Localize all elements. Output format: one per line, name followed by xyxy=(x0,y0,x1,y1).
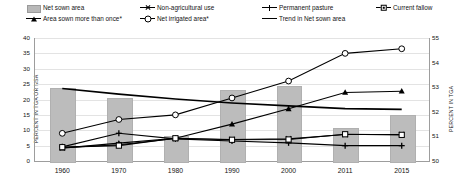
plot-wrapper: PERCENT IN TGA OR NSA PERCENT IN TGA 051… xyxy=(0,30,462,188)
series-layer xyxy=(34,38,430,161)
y-axis-right-tick: 53 xyxy=(432,83,448,90)
legend-item-label: Current fallow xyxy=(393,4,432,11)
x-axis-tick: 1970 xyxy=(111,167,126,174)
y-axis-left-tick: 0 xyxy=(14,157,30,164)
legend-key xyxy=(140,14,155,23)
legend-item-label: Area sown more than once* xyxy=(43,15,122,22)
y-axis-left-tick: 30 xyxy=(14,65,30,72)
plus-marker-icon xyxy=(267,5,273,11)
data-point-plus xyxy=(399,143,405,149)
legend-item-label: Net sown area xyxy=(43,4,84,11)
data-point-square xyxy=(343,132,348,137)
data-point-circle xyxy=(229,95,235,101)
legend-key xyxy=(26,14,41,23)
legend-item[interactable]: Trend in Net sown area xyxy=(262,14,345,23)
y-axis-left-tick: 15 xyxy=(14,111,30,118)
data-point-square xyxy=(116,143,121,148)
y-axis-right-tick: 55 xyxy=(432,34,448,41)
plot-area xyxy=(34,38,430,161)
data-point-square xyxy=(60,145,65,150)
legend-key xyxy=(376,3,391,12)
x-axis-tick: 1980 xyxy=(168,167,183,174)
y-axis-right-tick: 54 xyxy=(432,59,448,66)
x-axis-tick: 1990 xyxy=(224,167,239,174)
legend-item[interactable]: Current fallow xyxy=(376,3,432,12)
data-point-circle xyxy=(399,46,405,52)
data-point-circle xyxy=(59,130,65,136)
data-point-circle xyxy=(116,117,122,123)
legend-item[interactable]: Permanent pasture xyxy=(262,3,333,12)
y-axis-right-tick: 51 xyxy=(432,132,448,139)
x-axis-tick: 2011 xyxy=(338,167,353,174)
y-axis-left-tick: 10 xyxy=(14,126,30,133)
data-point-circle xyxy=(173,112,179,118)
y-axis-left-tick: 35 xyxy=(14,49,30,56)
y-axis-right-tick: 50 xyxy=(432,157,448,164)
data-point-square xyxy=(286,137,291,142)
square-dot-marker-icon xyxy=(380,4,387,11)
y-axis-left-tick: 40 xyxy=(14,34,30,41)
triangle-marker-icon xyxy=(31,16,37,21)
data-point-square xyxy=(173,136,178,141)
chart-container: Net sown areaNon-agricultural usePermane… xyxy=(0,0,462,188)
legend-item[interactable]: Area sown more than once* xyxy=(26,14,122,23)
chart-legend: Net sown areaNon-agricultural usePermane… xyxy=(0,0,462,30)
x-marker-icon xyxy=(145,5,151,11)
data-point-circle xyxy=(286,78,292,84)
legend-item-label: Net irrigated area* xyxy=(157,15,209,22)
legend-key xyxy=(140,3,155,12)
circle-marker-icon xyxy=(144,15,151,22)
series-current-fallow xyxy=(60,132,405,150)
x-axis-tick: 2000 xyxy=(281,167,296,174)
y-axis-right-tick: 52 xyxy=(432,108,448,115)
legend-key xyxy=(26,3,41,12)
legend-key xyxy=(262,3,277,12)
y-axis-left-tick: 25 xyxy=(14,80,30,87)
data-point-square xyxy=(399,132,404,137)
x-axis-tick: 1960 xyxy=(55,167,70,174)
legend-item[interactable]: Non-agricultural use xyxy=(140,3,214,12)
legend-key xyxy=(262,14,277,23)
legend-item-label: Permanent pasture xyxy=(279,4,333,11)
legend-item-label: Non-agricultural use xyxy=(157,4,214,11)
y-axis-right-title: PERCENT IN TGA xyxy=(448,86,454,132)
legend-item-label: Trend in Net sown area xyxy=(279,15,345,22)
legend-item[interactable]: Net sown area xyxy=(26,3,84,12)
legend-item[interactable]: Net irrigated area* xyxy=(140,14,209,23)
data-point-square xyxy=(229,137,234,142)
data-point-circle xyxy=(342,50,348,56)
x-axis-tick: 2015 xyxy=(394,167,409,174)
data-point-plus xyxy=(342,143,348,149)
data-point-plus xyxy=(116,130,122,136)
bar-swatch-icon xyxy=(27,5,41,13)
y-axis-left-tick: 5 xyxy=(14,142,30,149)
y-axis-left-tick: 20 xyxy=(14,96,30,103)
series-line xyxy=(62,49,401,134)
